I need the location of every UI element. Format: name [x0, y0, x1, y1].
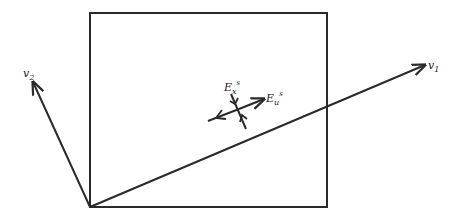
vector-v1-arrow [90, 65, 425, 207]
label-v1: v1 [428, 59, 439, 74]
domain-rectangle [90, 13, 327, 207]
label-stable-manifold: Exs [223, 79, 241, 96]
vector-v2-arrow [33, 82, 90, 207]
unstable-manifold-right [239, 99, 264, 109]
label-unstable-manifold: Eus [265, 90, 283, 107]
label-v2: v2 [23, 67, 34, 82]
diagram-canvas: v1 v2 Exs Eus [0, 0, 458, 222]
